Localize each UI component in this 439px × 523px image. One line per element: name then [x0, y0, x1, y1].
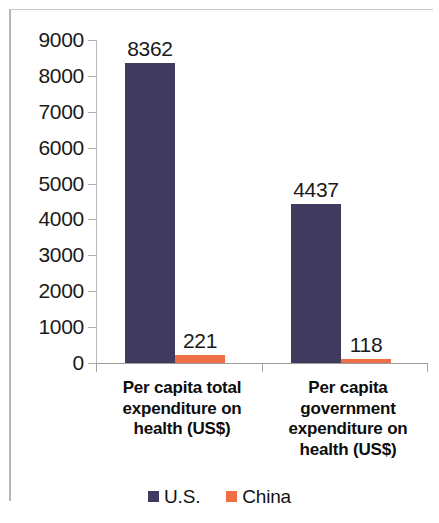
bar-chart: 9000800070006000500040003000200010000 83… — [0, 0, 439, 523]
y-axis-tick — [88, 40, 96, 41]
y-axis-tick-label: 2000 — [8, 280, 84, 301]
legend-swatch-icon — [226, 491, 237, 502]
y-axis-tick-label: 7000 — [8, 101, 84, 122]
x-axis-separator — [262, 363, 263, 372]
x-axis-category-label-0: Per capita totalexpenditure onhealth (US… — [96, 378, 268, 440]
legend-item-china[interactable]: China — [226, 487, 291, 506]
y-axis-tick — [88, 76, 96, 77]
bar-value-label: 4437 — [291, 179, 341, 200]
x-axis-label-line: health (US$) — [96, 419, 268, 440]
y-axis-tick-label: 1000 — [8, 316, 84, 337]
y-axis-tick — [88, 219, 96, 220]
x-axis-label-line: Per capita — [268, 378, 428, 399]
x-axis-separator — [427, 363, 428, 372]
bar-us-cat1 — [291, 204, 341, 363]
y-axis-tick-label: 6000 — [8, 137, 84, 158]
y-axis-tick — [88, 184, 96, 185]
y-axis-tick-label: 4000 — [8, 208, 84, 229]
y-axis-tick-label: 8000 — [8, 65, 84, 86]
bar-china-cat1 — [341, 359, 391, 363]
x-axis-label-line: health (US$) — [268, 440, 428, 461]
chart-legend: U.S.China — [0, 487, 439, 506]
bar-value-label: 221 — [175, 330, 225, 351]
bar-us-cat0 — [125, 63, 175, 363]
plot-area: 83622214437118 — [96, 40, 428, 363]
y-axis-tick-label: 9000 — [8, 29, 84, 50]
y-axis-tick — [88, 327, 96, 328]
x-axis-separator — [96, 363, 97, 372]
legend-swatch-icon — [148, 491, 159, 502]
x-axis-label-line: government — [268, 399, 428, 420]
legend-label: China — [242, 487, 291, 506]
y-axis-tick — [88, 112, 96, 113]
bar-value-label: 8362 — [125, 38, 175, 59]
y-axis-tick-label: 3000 — [8, 244, 84, 265]
legend-item-us[interactable]: U.S. — [148, 487, 200, 506]
bar-value-label: 118 — [341, 334, 391, 355]
bar-china-cat0 — [175, 355, 225, 363]
x-axis-label-line: expenditure on — [268, 419, 428, 440]
y-axis-tick — [88, 148, 96, 149]
x-axis-label-line: expenditure on — [96, 399, 268, 420]
x-axis-label-line: Per capita total — [96, 378, 268, 399]
y-axis-tick-label: 5000 — [8, 173, 84, 194]
legend-label: U.S. — [164, 487, 200, 506]
y-axis-tick-label: 0 — [8, 352, 84, 373]
y-axis-tick — [88, 363, 96, 364]
y-axis-tick — [88, 291, 96, 292]
x-axis-category-label-1: Per capitagovernmentexpenditure onhealth… — [268, 378, 428, 461]
y-axis-tick — [88, 255, 96, 256]
